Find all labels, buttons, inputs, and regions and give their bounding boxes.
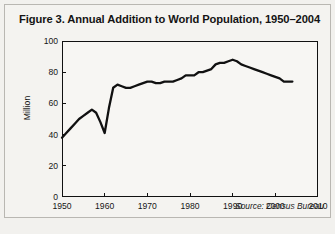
x-tick-label: 1950: [52, 201, 71, 211]
x-tick-mark: [147, 193, 148, 197]
x-tick-label: 1990: [223, 201, 242, 211]
y-tick-label: 0: [6, 192, 58, 202]
y-tick-mark: [62, 103, 66, 104]
y-tick-label: 60: [6, 98, 58, 108]
x-tick-mark: [104, 193, 105, 197]
y-tick-label: 40: [6, 130, 58, 140]
y-tick-label: 100: [6, 36, 58, 46]
x-tick-label: 1980: [180, 201, 199, 211]
figure-title: Figure 3. Annual Addition to World Popul…: [19, 13, 320, 25]
figure-container: Figure 3. Annual Addition to World Popul…: [0, 0, 335, 234]
y-tick-label: 20: [6, 161, 58, 171]
x-tick-label: 2010: [308, 201, 327, 211]
x-tick-label: 2000: [266, 201, 285, 211]
chart-plot-area: [62, 41, 318, 197]
y-tick-mark: [62, 165, 66, 166]
y-tick-mark: [62, 72, 66, 73]
data-line-series: [62, 60, 292, 138]
x-tick-label: 1970: [138, 201, 157, 211]
x-tick-mark: [275, 193, 276, 197]
x-tick-label: 1960: [95, 201, 114, 211]
x-tick-mark: [232, 193, 233, 197]
y-tick-label: 80: [6, 67, 58, 77]
y-tick-mark: [62, 134, 66, 135]
y-axis-label: Million: [22, 78, 32, 138]
x-tick-mark: [190, 193, 191, 197]
figure-card: Figure 3. Annual Addition to World Popul…: [4, 4, 331, 218]
